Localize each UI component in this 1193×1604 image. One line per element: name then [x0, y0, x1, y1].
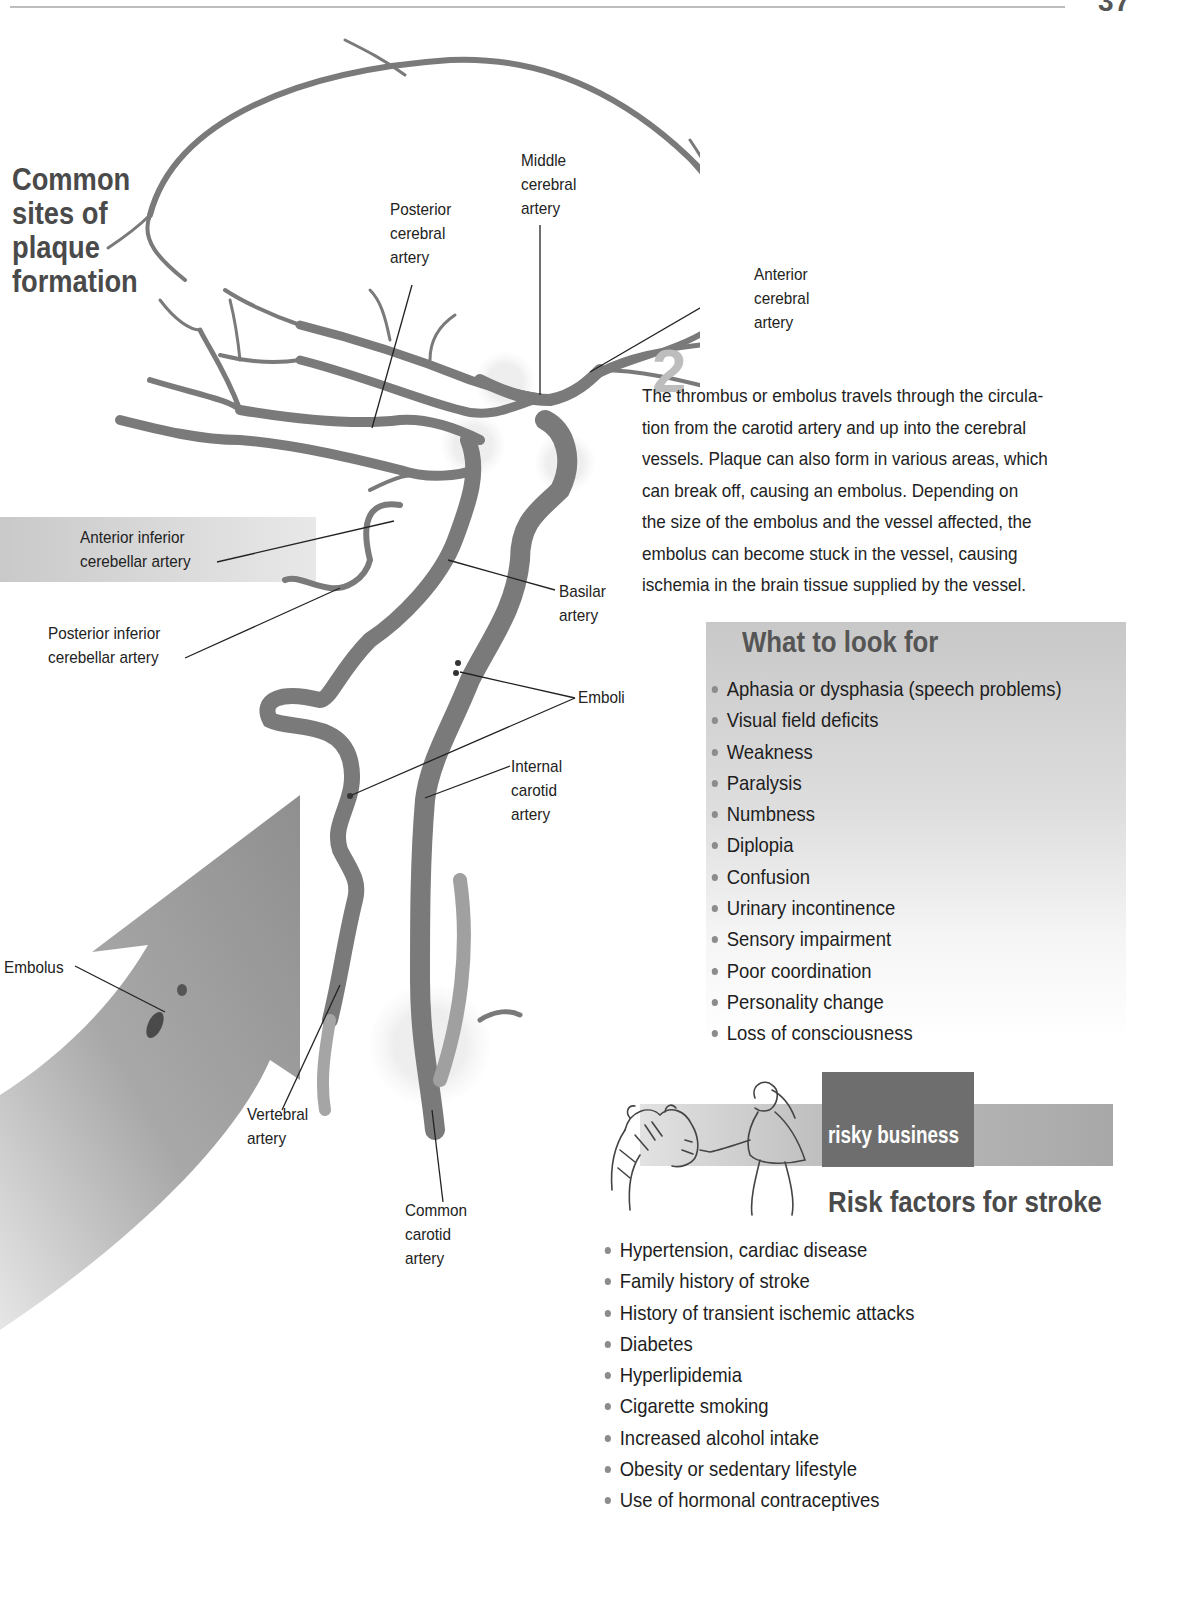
body-paragraph: The thrombus or embolus travels through … [642, 380, 1092, 601]
label-line: artery [754, 311, 809, 335]
symptom-list: Aphasia or dysphasia (speech problems) V… [710, 673, 1110, 1049]
list-item: Poor coordination [710, 955, 1062, 986]
label-line: artery [521, 197, 576, 221]
label-line: cerebral [521, 173, 576, 197]
what-to-look-for-title: What to look for [742, 622, 938, 662]
diagram-title: Common sites of plaque formation [12, 163, 138, 299]
list-item: Obesity or sedentary lifestyle [603, 1453, 914, 1484]
list-item: Visual field deficits [710, 704, 1062, 735]
tiger-and-nurse-illustration [600, 1070, 830, 1220]
list-item: Increased alcohol intake [603, 1422, 914, 1453]
paragraph-line: The thrombus or embolus travels through … [642, 380, 1092, 412]
paragraph-line: tion from the carotid artery and up into… [642, 412, 1092, 444]
label-line: carotid [405, 1223, 467, 1247]
list-item: Use of hormonal contraceptives [603, 1484, 914, 1515]
paragraph-line: ischemia in the brain tissue supplied by… [642, 569, 1092, 601]
label-line: cerebellar artery [48, 646, 160, 670]
label-basilar-artery: Basilar artery [559, 580, 606, 628]
list-item: Hypertension, cardiac disease [603, 1234, 914, 1265]
risk-factors-title: Risk factors for stroke [828, 1182, 1102, 1222]
risky-business-label: risky business [828, 1120, 959, 1150]
list-item: Hyperlipidemia [603, 1359, 914, 1390]
label-line: artery [511, 803, 562, 827]
list-item: Paralysis [710, 767, 1062, 798]
label-line: artery [390, 246, 451, 270]
list-item: Loss of consciousness [710, 1017, 1062, 1048]
label-line: artery [405, 1247, 467, 1271]
label-line: Posterior inferior [48, 622, 160, 646]
label-line: Internal [511, 755, 562, 779]
label-line: Vertebral [247, 1103, 308, 1127]
label-internal-carotid-artery: Internal carotid artery [511, 755, 562, 827]
list-item: Cigarette smoking [603, 1390, 914, 1421]
label-vertebral-artery: Vertebral artery [247, 1103, 308, 1151]
label-middle-cerebral-artery: Middle cerebral artery [521, 149, 576, 221]
risk-factor-list: Hypertension, cardiac disease Family his… [603, 1234, 957, 1516]
label-posterior-cerebral-artery: Posterior cerebral artery [390, 198, 451, 270]
list-item: History of transient ischemic attacks [603, 1297, 914, 1328]
list-item: Confusion [710, 861, 1062, 892]
label-line: Basilar [559, 580, 606, 604]
label-line: artery [559, 604, 606, 628]
paragraph-line: can break off, causing an embolus. Depen… [642, 475, 1092, 507]
label-line: cerebral [390, 222, 451, 246]
title-line: Common [12, 163, 138, 197]
list-item: Family history of stroke [603, 1265, 914, 1296]
list-item: Urinary incontinence [710, 892, 1062, 923]
label-line: carotid [511, 779, 562, 803]
label-line: Anterior inferior [80, 526, 191, 550]
paragraph-line: embolus can become stuck in the vessel, … [642, 538, 1092, 570]
title-line: plaque [12, 231, 138, 265]
label-line: artery [247, 1127, 308, 1151]
label-line: Common [405, 1199, 467, 1223]
label-anterior-cerebral-artery: Anterior cerebral artery [754, 263, 809, 335]
list-item: Sensory impairment [710, 923, 1062, 954]
list-item: Diplopia [710, 829, 1062, 860]
label-embolus: Embolus [4, 956, 64, 980]
label-common-carotid-artery: Common carotid artery [405, 1199, 467, 1271]
flow-arrow [0, 795, 300, 1330]
label-line: cerebral [754, 287, 809, 311]
list-item: Weakness [710, 736, 1062, 767]
paragraph-line: the size of the embolus and the vessel a… [642, 506, 1092, 538]
label-posterior-inferior-cerebellar-artery: Posterior inferior cerebellar artery [48, 622, 160, 670]
title-line: sites of [12, 197, 138, 231]
label-emboli: Emboli [578, 686, 625, 710]
label-line: Posterior [390, 198, 451, 222]
list-item: Aphasia or dysphasia (speech problems) [710, 673, 1062, 704]
label-anterior-inferior-cerebellar-artery: Anterior inferior cerebellar artery [80, 526, 191, 574]
label-line: cerebellar artery [80, 550, 191, 574]
list-item: Numbness [710, 798, 1062, 829]
label-line: Anterior [754, 263, 809, 287]
list-item: Personality change [710, 986, 1062, 1017]
list-item: Diabetes [603, 1328, 914, 1359]
title-line: formation [12, 265, 138, 299]
label-line: Middle [521, 149, 576, 173]
page-number: 37 [1098, 0, 1131, 18]
paragraph-line: vessels. Plaque can also form in various… [642, 443, 1092, 475]
